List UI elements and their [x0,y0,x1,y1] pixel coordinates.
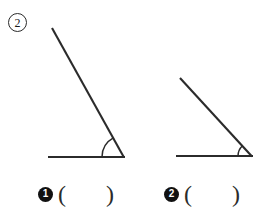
open-paren-icon: ( [58,182,66,206]
close-paren-icon: ) [232,182,240,206]
angle-2-ray [180,78,252,157]
answer-row: 1 ( ) 2 ( ) [0,181,278,211]
answer-bullet-2: 2 [164,187,179,202]
answer-bullet-1: 1 [38,187,53,202]
close-paren-icon: ) [106,182,114,206]
answer-item-2: 2 ( ) [164,181,240,207]
answer-parentheses-2: ( ) [184,182,240,206]
open-paren-icon: ( [184,182,192,206]
answer-blank-2[interactable] [192,201,232,202]
angle-1-arc-marking [102,138,113,157]
angle-figure-1 [48,28,125,158]
angle-2-arc-marking [238,146,243,156]
angle-figure-2 [176,78,253,157]
answer-blank-1[interactable] [66,201,106,202]
answer-item-1: 1 ( ) [38,181,114,207]
worksheet-page: 2 1 ( ) 2 ( ) [0,0,278,216]
answer-parentheses-1: ( ) [58,182,114,206]
